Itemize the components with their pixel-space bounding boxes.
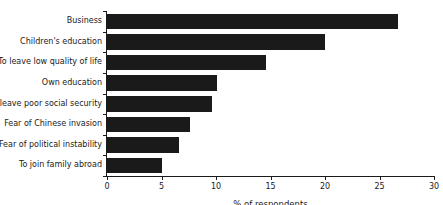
category-label: To join family abroad (19, 155, 102, 176)
category-label: Fear of Chinese invasion (4, 114, 102, 135)
bar (107, 34, 325, 49)
category-label: Fear of political instability (0, 135, 102, 156)
category-label: To leave poor social security (0, 94, 102, 115)
category-label: Business (67, 11, 102, 32)
bar-row: To join family abroad (107, 155, 434, 176)
bar (107, 158, 162, 173)
bar (107, 117, 190, 132)
x-axis-tick (380, 176, 381, 180)
bar (107, 55, 266, 70)
x-axis-tick-label: 10 (211, 182, 221, 191)
bar (107, 14, 398, 29)
bar (107, 75, 217, 90)
bar-row: Fear of Chinese invasion (107, 114, 434, 135)
bar (107, 137, 179, 152)
bar-row: Fear of political instability (107, 135, 434, 156)
x-axis-title: % of respondents (107, 199, 434, 205)
category-label: To leave low quality of life (0, 52, 102, 73)
x-axis-tick-label: 0 (104, 182, 109, 191)
category-label: Children's education (20, 32, 102, 53)
x-axis-tick-label: 15 (265, 182, 275, 191)
x-axis-tick (325, 176, 326, 180)
x-axis-tick (162, 176, 163, 180)
plot-area: BusinessChildren's educationTo leave low… (107, 11, 434, 176)
bar-row: Children's education (107, 32, 434, 53)
x-axis-tick-label: 30 (429, 182, 439, 191)
bar-row: To leave low quality of life (107, 52, 434, 73)
x-axis-tick-label: 25 (374, 182, 384, 191)
x-axis-tick-label: 20 (320, 182, 330, 191)
bar-row: Business (107, 11, 434, 32)
bar-row: To leave poor social security (107, 94, 434, 115)
x-axis-tick (216, 176, 217, 180)
bar-row: Own education (107, 73, 434, 94)
x-axis-tick (107, 176, 108, 180)
x-axis-tick-label: 5 (159, 182, 164, 191)
x-axis-tick (271, 176, 272, 180)
x-axis-tick (434, 176, 435, 180)
bar (107, 96, 212, 111)
category-label: Own education (42, 73, 102, 94)
bar-chart: BusinessChildren's educationTo leave low… (0, 0, 443, 205)
